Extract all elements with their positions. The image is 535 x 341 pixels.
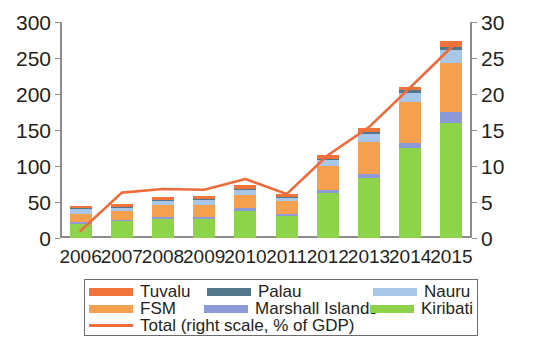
legend-item-total-right-scale-of-gdp[interactable]: Total (right scale, % of GDP) — [89, 317, 207, 334]
y-tick-label-left: 300 — [16, 12, 51, 33]
legend-label: Nauru — [424, 283, 470, 300]
y-tick-label-left: 250 — [16, 48, 51, 69]
legend-color-swatch — [89, 305, 133, 313]
x-tick-label: 2009 — [183, 247, 225, 266]
legend-color-swatch — [204, 305, 248, 313]
legend-label: Tuvalu — [140, 283, 190, 300]
legend-color-swatch — [89, 288, 133, 296]
legend-label: Palau — [258, 283, 301, 300]
y-tick-right — [472, 94, 477, 95]
legend-color-swatch — [373, 288, 417, 296]
y-tick-label-left: 50 — [28, 192, 51, 213]
legend-item-nauru[interactable]: Nauru — [373, 283, 470, 300]
x-tick-label: 2015 — [430, 247, 472, 266]
legend-label: Kiribati — [421, 300, 473, 317]
total-line-series — [60, 22, 472, 238]
y-tick-label-right: 5 — [481, 192, 493, 213]
x-tick-label: 2008 — [142, 247, 184, 266]
y-tick-label-right: 10 — [481, 156, 504, 177]
y-tick-right — [472, 130, 477, 131]
y-tick-label-right: 15 — [481, 120, 504, 141]
legend-row: Total (right scale, % of GDP) — [89, 317, 473, 334]
legend-item-kiribati[interactable]: Kiribati — [370, 300, 473, 317]
y-tick-right — [472, 202, 477, 203]
y-tick-label-right: 20 — [481, 84, 504, 105]
y-tick-label-left: 200 — [16, 84, 51, 105]
legend-item-marshall-islands[interactable]: Marshall Islands — [204, 300, 370, 317]
y-tick-right — [472, 22, 477, 23]
legend-item-tuvalu[interactable]: Tuvalu — [89, 283, 207, 300]
x-tick-label: 2013 — [348, 247, 390, 266]
y-tick-label-left: 0 — [39, 228, 51, 249]
y-tick-label-right: 0 — [481, 228, 493, 249]
legend-item-fsm[interactable]: FSM — [89, 300, 204, 317]
legend-color-swatch — [207, 288, 251, 296]
legend-label: Total (right scale, % of GDP) — [140, 317, 354, 334]
stacked-bar-chart: 050100150200250300 051015202530 20062007… — [0, 0, 535, 341]
y-tick-label-right: 25 — [481, 48, 504, 69]
x-tick-label: 2014 — [389, 247, 431, 266]
total-line-path — [81, 47, 452, 231]
y-tick-right — [472, 166, 477, 167]
y-tick-left — [55, 238, 60, 239]
x-tick-label: 2007 — [101, 247, 143, 266]
plot-area: 050100150200250300 051015202530 20062007… — [60, 22, 472, 238]
legend-row: TuvaluPalauNauru — [89, 283, 473, 300]
legend-item-palau[interactable]: Palau — [207, 283, 373, 300]
x-tick-label: 2012 — [307, 247, 349, 266]
legend-label: FSM — [140, 300, 176, 317]
y-tick-right — [472, 58, 477, 59]
legend-row: FSMMarshall IslandsKiribati — [89, 300, 473, 317]
y-tick-label-left: 100 — [16, 156, 51, 177]
x-tick-label: 2006 — [59, 247, 101, 266]
legend-line-swatch — [89, 324, 133, 327]
legend-label: Marshall Islands — [255, 300, 378, 317]
x-tick-label: 2010 — [224, 247, 266, 266]
x-tick-label: 2011 — [266, 247, 307, 266]
chart-legend: TuvaluPalauNauruFSMMarshall IslandsKirib… — [84, 279, 478, 336]
y-tick-right — [472, 238, 477, 239]
legend-color-swatch — [370, 305, 414, 313]
y-tick-label-left: 150 — [16, 120, 51, 141]
y-tick-label-right: 30 — [481, 12, 504, 33]
